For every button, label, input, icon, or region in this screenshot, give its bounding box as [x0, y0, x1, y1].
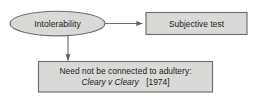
adultery-note-case-name: Cleary v Cleary: [82, 77, 140, 87]
diagram-canvas: Intolerability Subjective test Need not …: [0, 0, 256, 100]
subjective-test-label: Subjective test: [169, 19, 225, 29]
intolerability-label: Intolerability: [34, 19, 81, 29]
adultery-note-line1: Need not be connected to adultery:: [59, 66, 191, 76]
adultery-note-case-year: [1974]: [146, 77, 169, 87]
node-adultery-note[interactable]: Need not be connected to adultery: Clear…: [39, 62, 213, 93]
flow-diagram: Intolerability Subjective test Need not …: [0, 0, 256, 100]
node-subjective-test[interactable]: Subjective test: [146, 13, 247, 35]
node-intolerability[interactable]: Intolerability: [10, 11, 105, 36]
